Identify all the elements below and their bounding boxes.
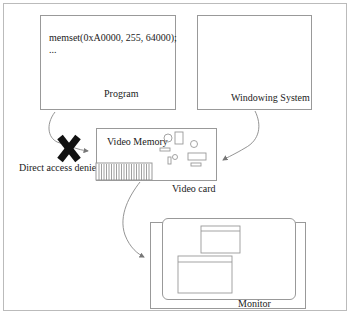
monitor-windows bbox=[178, 226, 240, 293]
diagram-graphics bbox=[0, 0, 352, 316]
card-edge-connector bbox=[96, 163, 152, 180]
arrow-card-to-monitor bbox=[123, 182, 144, 257]
card-components bbox=[160, 132, 206, 166]
arrow-windowing-to-card bbox=[223, 111, 259, 160]
